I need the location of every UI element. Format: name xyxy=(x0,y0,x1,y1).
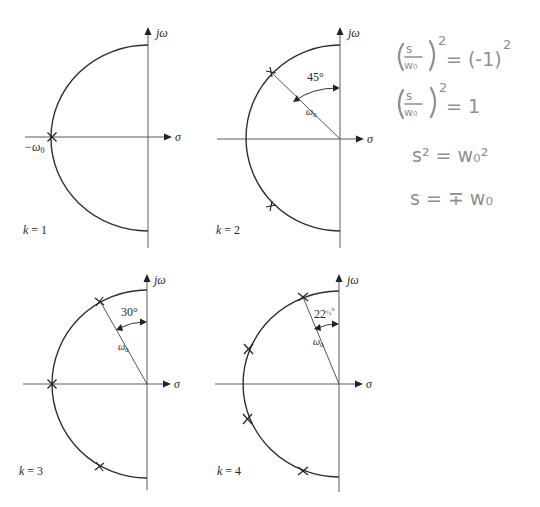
panel-label-k2: k = 2 xyxy=(216,223,240,237)
imag-axis-label: jω xyxy=(345,273,359,287)
butterworth-pole-diagram: jω σ −ω0 k = 1 jω σ 45° ω0 xyxy=(0,0,540,507)
note-line-2: s w₀ 2 = 1 xyxy=(399,80,480,119)
panel-label-k4: k = 4 xyxy=(217,464,241,478)
handwritten-notes: s w₀ 2 = (-1) 2 s w₀ 2 = 1 s² = w₀² s = … xyxy=(399,33,511,209)
imag-axis-arrow-icon xyxy=(144,274,151,282)
angle-arc xyxy=(296,88,337,100)
note-line-4: s = ∓ w₀ xyxy=(410,187,493,209)
real-axis-arrow-icon xyxy=(163,381,171,388)
angle-arrow-left-icon xyxy=(116,324,123,331)
real-axis-label: σ xyxy=(175,130,182,144)
svg-text:s: s xyxy=(406,42,412,56)
imag-axis-arrow-icon xyxy=(337,27,344,35)
note-line-1: s w₀ 2 = (-1) 2 xyxy=(399,33,511,72)
real-axis-arrow-icon xyxy=(355,381,363,388)
angle-arrow-right-icon xyxy=(332,321,339,328)
svg-text:= 1: = 1 xyxy=(446,95,480,117)
pole-circle-arc xyxy=(51,45,148,231)
panel-k4: jω σ 22½° ω0 k = 4 xyxy=(215,273,373,492)
real-axis-arrow-icon xyxy=(356,136,364,143)
panel-k1: jω σ −ω0 k = 1 xyxy=(23,26,182,248)
angle-arrow-right-icon xyxy=(333,85,340,92)
panel-k2: jω σ 45° ω0 k = 2 xyxy=(216,26,374,248)
panel-k3: jω σ 30° ω0 k = 3 xyxy=(19,273,181,490)
svg-text:w₀: w₀ xyxy=(404,106,418,119)
angle-label: 45° xyxy=(307,70,324,84)
angle-arrow-right-icon xyxy=(140,319,147,326)
panel-label-k1: k = 1 xyxy=(23,223,47,237)
svg-text:2: 2 xyxy=(503,37,511,52)
real-axis-label: σ xyxy=(367,132,374,146)
pole-marker-icon xyxy=(266,201,276,211)
imag-axis-label: jω xyxy=(152,273,166,287)
real-axis-label: σ xyxy=(174,377,181,391)
imag-axis-label: jω xyxy=(154,26,168,40)
radius-label: ω0 xyxy=(306,106,317,119)
imag-axis-arrow-icon xyxy=(145,27,152,35)
note-line-3: s² = w₀² xyxy=(412,144,488,166)
svg-text:s: s xyxy=(406,89,412,103)
imag-axis-label: jω xyxy=(346,26,360,40)
radius-label: ω0 xyxy=(118,341,129,354)
pole-circle-arc xyxy=(246,45,340,231)
svg-text:= (-1): = (-1) xyxy=(446,48,502,70)
svg-text:w₀: w₀ xyxy=(404,59,418,72)
svg-text:2: 2 xyxy=(438,33,446,48)
panel-label-k3: k = 3 xyxy=(19,464,43,478)
neg-omega0-label: −ω0 xyxy=(24,140,45,155)
radius-label: ω0 xyxy=(313,336,324,349)
imag-axis-arrow-icon xyxy=(336,274,343,282)
angle-label: 22½° xyxy=(314,306,335,321)
svg-text:2: 2 xyxy=(439,80,447,95)
real-axis-arrow-icon xyxy=(164,134,172,141)
real-axis-label: σ xyxy=(366,377,373,391)
angle-label: 30° xyxy=(121,305,138,319)
